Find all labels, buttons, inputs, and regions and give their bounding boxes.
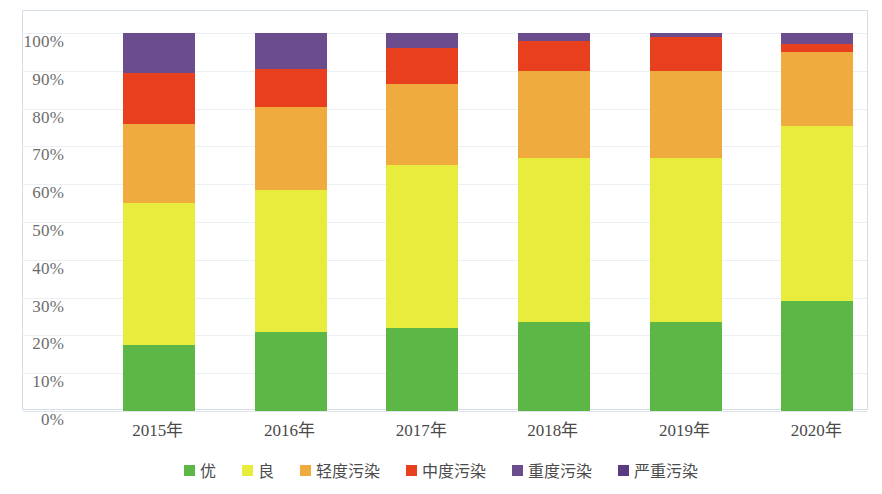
x-axis-tick-label: 2020年: [791, 416, 842, 441]
x-axis-tick-label: 2016年: [264, 416, 315, 441]
bar-stack: [123, 33, 195, 411]
bar-stack: [386, 33, 458, 411]
legend-swatch-icon: [300, 465, 311, 476]
y-axis-tick-label: 70%: [32, 145, 64, 165]
bar-segment[interactable]: [123, 33, 195, 73]
legend-item-label: 严重污染: [634, 458, 698, 482]
x-axis-tick-label: 2019年: [659, 416, 710, 441]
bar-segment[interactable]: [123, 124, 195, 203]
bar-segment[interactable]: [781, 126, 853, 302]
bar-segment[interactable]: [650, 71, 722, 158]
bar-segment[interactable]: [518, 33, 590, 41]
bar-stack: [650, 33, 722, 411]
legend-item-label: 重度污染: [528, 458, 592, 482]
bar-segment[interactable]: [781, 44, 853, 52]
bar-segment[interactable]: [386, 84, 458, 165]
y-axis-tick-label: 40%: [32, 259, 64, 279]
legend-item[interactable]: 中度污染: [406, 458, 486, 482]
legend-item[interactable]: 优: [184, 458, 216, 482]
legend-item[interactable]: 轻度污染: [300, 458, 380, 482]
legend-swatch-icon: [242, 465, 253, 476]
bar-segment[interactable]: [255, 69, 327, 107]
legend-item[interactable]: 严重污染: [618, 458, 698, 482]
bar-segment[interactable]: [386, 328, 458, 411]
bar-group[interactable]: [781, 33, 853, 411]
bar-segment[interactable]: [781, 301, 853, 411]
legend-item-label: 优: [200, 458, 216, 482]
bar-segment[interactable]: [123, 73, 195, 124]
bars-layer: [93, 33, 882, 411]
bar-segment[interactable]: [518, 322, 590, 411]
y-axis: 0%10%20%30%40%50%60%70%80%90%100%: [0, 10, 72, 410]
bar-segment[interactable]: [518, 71, 590, 158]
legend-swatch-icon: [512, 465, 523, 476]
bar-segment[interactable]: [518, 41, 590, 71]
y-axis-tick-label: 100%: [24, 32, 64, 52]
bar-segment[interactable]: [650, 158, 722, 322]
y-axis-tick-label: 90%: [32, 70, 64, 90]
legend-item[interactable]: 重度污染: [512, 458, 592, 482]
y-axis-tick-label: 50%: [32, 221, 64, 241]
x-axis-tick-label: 2015年: [132, 416, 183, 441]
bar-segment[interactable]: [255, 33, 327, 69]
y-axis-tick-label: 0%: [41, 410, 64, 430]
y-axis-tick-label: 60%: [32, 183, 64, 203]
legend-swatch-icon: [618, 465, 629, 476]
bar-segment[interactable]: [650, 37, 722, 71]
bar-group[interactable]: [386, 33, 458, 411]
bar-stack: [255, 33, 327, 411]
legend-item-label: 良: [258, 458, 274, 482]
plot-frame: [22, 10, 868, 410]
bar-stack: [781, 33, 853, 411]
x-axis-tick-label: 2018年: [527, 416, 578, 441]
gridline: [23, 411, 867, 412]
legend-item-label: 中度污染: [422, 458, 486, 482]
bar-segment[interactable]: [650, 322, 722, 411]
y-axis-tick-label: 10%: [32, 372, 64, 392]
x-axis-tick-label: 2017年: [396, 416, 447, 441]
bar-group[interactable]: [255, 33, 327, 411]
bar-group[interactable]: [518, 33, 590, 411]
bar-segment[interactable]: [123, 203, 195, 345]
legend-item[interactable]: 良: [242, 458, 274, 482]
bar-segment[interactable]: [518, 158, 590, 322]
bar-segment[interactable]: [386, 48, 458, 84]
bar-segment[interactable]: [386, 33, 458, 48]
bar-segment[interactable]: [781, 33, 853, 44]
legend-swatch-icon: [184, 465, 195, 476]
bar-segment[interactable]: [255, 190, 327, 332]
bar-segment[interactable]: [255, 107, 327, 190]
bar-segment[interactable]: [650, 33, 722, 37]
bar-group[interactable]: [123, 33, 195, 411]
legend-item-label: 轻度污染: [316, 458, 380, 482]
y-axis-tick-label: 20%: [32, 334, 64, 354]
y-axis-tick-label: 80%: [32, 108, 64, 128]
y-axis-tick-label: 30%: [32, 297, 64, 317]
bar-stack: [518, 33, 590, 411]
bar-segment[interactable]: [255, 332, 327, 411]
chart-legend: 优良轻度污染中度污染重度污染严重污染: [0, 455, 882, 485]
legend-swatch-icon: [406, 465, 417, 476]
bar-segment[interactable]: [123, 345, 195, 411]
x-axis-labels: 2015年2016年2017年2018年2019年2020年: [92, 416, 882, 446]
bar-segment[interactable]: [386, 165, 458, 328]
bar-group[interactable]: [650, 33, 722, 411]
plot-area: [93, 33, 882, 411]
air-quality-stacked-bar-chart: 0%10%20%30%40%50%60%70%80%90%100% 2015年2…: [0, 0, 882, 494]
bar-segment[interactable]: [781, 52, 853, 126]
